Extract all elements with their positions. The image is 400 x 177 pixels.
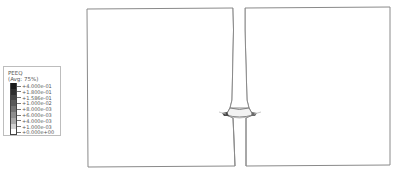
legend-tick	[17, 120, 21, 121]
left-plate	[87, 8, 235, 167]
legend-tick	[17, 115, 21, 116]
legend-tick	[17, 103, 21, 104]
legend-tick	[17, 91, 21, 92]
neck-bulge	[226, 108, 253, 117]
legend-tick	[17, 126, 21, 127]
right-plate	[245, 7, 390, 166]
legend-entry: +0.000e+00	[10, 129, 54, 135]
legend-value: +0.000e+00	[22, 129, 54, 135]
legend-tick	[17, 97, 21, 98]
peeq-legend: PEEQ (Avg: 75%) +4.000e-01+1.800e-01+1.5…	[3, 66, 61, 136]
neck-lower	[233, 118, 246, 166]
legend-tick	[17, 132, 21, 133]
legend-tick	[17, 109, 21, 110]
legend-subtitle: (Avg: 75%)	[8, 76, 38, 82]
legend-color-swatch	[10, 129, 17, 135]
legend-tick	[17, 86, 21, 87]
